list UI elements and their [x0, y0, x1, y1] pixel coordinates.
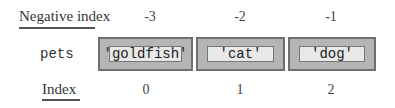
negative-index-1: -2: [220, 9, 260, 25]
variable-name: pets: [40, 46, 74, 62]
list-item-value-0: 'goldfish': [109, 46, 182, 62]
negative-index-0: -3: [130, 9, 170, 25]
index-0: 0: [126, 82, 166, 98]
index-1: 1: [220, 82, 260, 98]
list-item-box-2: 'dog': [288, 37, 376, 71]
list-item-value-2: 'dog': [299, 46, 365, 62]
negative-index-underline: [19, 27, 95, 29]
index-label: Index: [42, 81, 76, 98]
index-2: 2: [311, 82, 351, 98]
negative-index-2: -1: [311, 9, 351, 25]
list-item-box-1: 'cat': [196, 37, 285, 71]
list-item-value-1: 'cat': [207, 46, 274, 62]
index-underline: [42, 99, 80, 101]
negative-index-label: Negative index: [19, 8, 110, 25]
list-item-box-0: 'goldfish': [98, 37, 193, 71]
